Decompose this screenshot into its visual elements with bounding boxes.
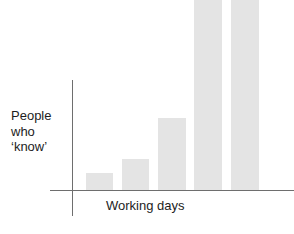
x-axis-line xyxy=(50,190,294,191)
bar-2 xyxy=(122,159,149,190)
y-axis-label: Peoplewho‘know’ xyxy=(11,108,73,155)
bar-5 xyxy=(231,0,259,190)
bar-chart-figure: Peoplewho‘know’ Working days xyxy=(0,0,294,234)
y-axis-label-line-2: who xyxy=(11,124,73,140)
y-axis-label-line-3: ‘know’ xyxy=(11,139,73,155)
bar-1 xyxy=(86,173,113,190)
bar-3 xyxy=(158,118,186,190)
x-axis-label: Working days xyxy=(106,198,185,214)
y-axis-label-line-1: People xyxy=(11,108,73,124)
bar-4 xyxy=(194,0,222,190)
